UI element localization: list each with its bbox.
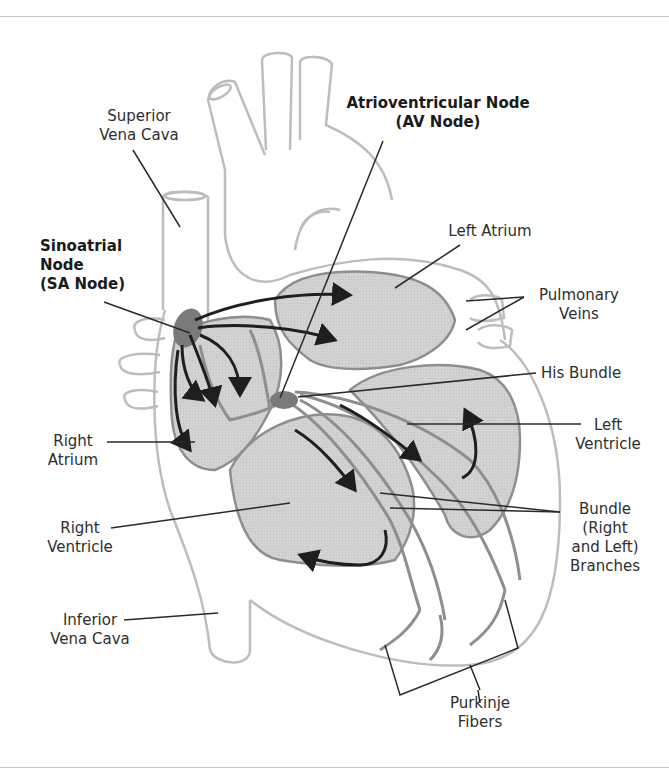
leader-sa-node	[104, 302, 190, 333]
label-line: and Left)	[560, 538, 650, 557]
label-line: Right	[40, 519, 120, 538]
label-line: Bundle	[560, 500, 650, 519]
label-line: Left	[568, 416, 648, 435]
left-atrium-region	[275, 272, 455, 369]
label-line: Ventricle	[40, 538, 120, 557]
label-inferior-vena-cava: Inferior Vena Cava	[40, 611, 140, 649]
label-line: (SA Node)	[40, 275, 140, 294]
label-left-ventricle: Left Ventricle	[568, 416, 648, 454]
label-line: Superior	[84, 107, 194, 126]
label-line: Ventricle	[568, 435, 648, 454]
label-line: Vena Cava	[40, 630, 140, 649]
label-purkinje-fibers: Purkinje Fibers	[440, 694, 520, 732]
label-line: Inferior	[40, 611, 140, 630]
label-line: Atrioventricular Node	[323, 94, 553, 113]
label-right-ventricle: Right Ventricle	[40, 519, 120, 557]
label-line: Atrium	[40, 451, 106, 470]
label-line: Left Atrium	[435, 222, 545, 241]
label-line: Pulmonary	[524, 286, 634, 305]
leader-superior-vena-cava	[133, 150, 180, 227]
label-line: Purkinje	[440, 694, 520, 713]
av-node	[270, 391, 298, 409]
label-his-bundle: His Bundle	[541, 364, 651, 383]
label-line: Fibers	[440, 713, 520, 732]
label-line: Vena Cava	[84, 126, 194, 145]
label-superior-vena-cava: Superior Vena Cava	[84, 107, 194, 145]
label-left-atrium: Left Atrium	[435, 222, 545, 241]
label-bundle-branches: Bundle (Right and Left) Branches	[560, 500, 650, 576]
label-line: His Bundle	[541, 364, 651, 383]
label-line: Node	[40, 256, 140, 275]
label-line: (Right	[560, 519, 650, 538]
label-line: (AV Node)	[323, 113, 553, 132]
label-pulmonary-veins: Pulmonary Veins	[524, 286, 634, 324]
label-line: Right	[40, 432, 106, 451]
label-sa-node: Sinoatrial Node (SA Node)	[40, 237, 140, 294]
label-av-node: Atrioventricular Node (AV Node)	[323, 94, 553, 132]
label-line: Branches	[560, 557, 650, 576]
label-line: Sinoatrial	[40, 237, 140, 256]
label-right-atrium: Right Atrium	[40, 432, 106, 470]
label-line: Veins	[524, 305, 634, 324]
